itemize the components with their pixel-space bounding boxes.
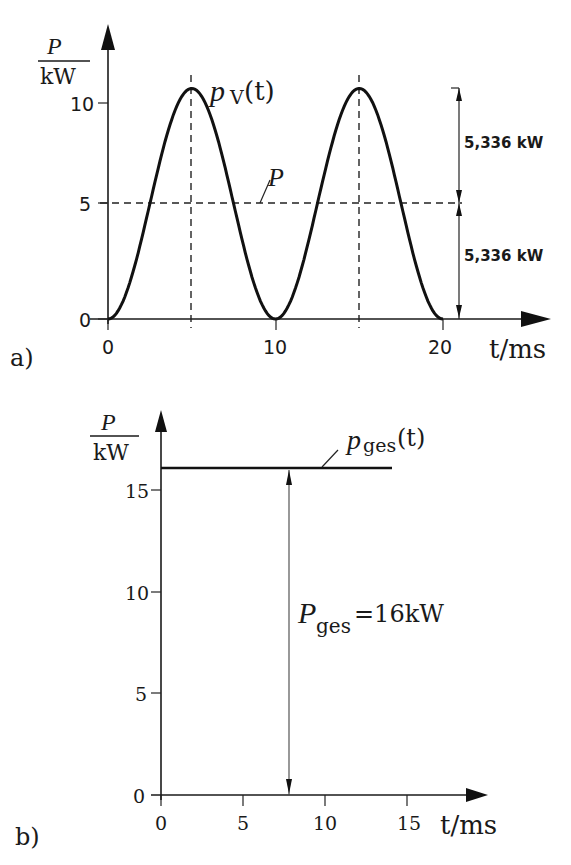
chart-a-xlabel: t/ms <box>489 334 546 364</box>
chart-b-curve-leader <box>322 450 338 467</box>
chart-a-curve-label-sub: V <box>229 86 244 108</box>
chart-a-dim-arrow-up-icon <box>456 203 462 216</box>
chart-a-dim-label-upper: 5,336 kW <box>464 134 544 152</box>
chart-a-y-axis-arrow-icon <box>101 24 115 50</box>
chart-b-xtick-label-15: 15 <box>397 812 421 834</box>
figure: P kW 10 5 0 0 10 20 t/ms p V <box>0 0 571 865</box>
chart-a-ylabel-den: kW <box>40 64 76 89</box>
chart-b-xtick-label-0: 0 <box>155 812 167 834</box>
chart-a-dim-label-lower: 5,336 kW <box>464 247 544 265</box>
chart-b-annotation-main: P <box>297 596 316 629</box>
chart-b-ylabel-den: kW <box>93 440 129 465</box>
chart-b-ytick-label-15: 15 <box>125 480 149 502</box>
chart-a-pv-curve <box>108 89 443 320</box>
chart-a-panel-label: a) <box>10 344 34 372</box>
chart-b-annotation-value: =16kW <box>354 600 444 628</box>
chart-a-xtick-label-10: 10 <box>263 336 287 358</box>
chart-a-ytick-label-0: 0 <box>79 309 91 331</box>
chart-b-ytick-label-5: 5 <box>135 683 147 705</box>
chart-a-ytick-label-5: 5 <box>79 193 91 215</box>
chart-a-ytick-label-10: 10 <box>70 93 94 115</box>
chart-b-curve-label-sub: ges <box>363 434 396 456</box>
chart-a-curve-label-main: p <box>208 74 225 107</box>
chart-b-ylabel-num: P <box>100 409 116 435</box>
chart-b: P kW 15 10 5 0 0 5 10 15 t/ms p ges <box>15 409 497 851</box>
chart-a-xtick-label-0: 0 <box>102 336 114 358</box>
chart-b-ytick-label-10: 10 <box>125 582 149 604</box>
chart-a-dim-arrow-up-icon <box>456 88 462 101</box>
chart-a-xtick-label-20: 20 <box>428 336 452 358</box>
chart-b-annotation-sub: ges <box>316 614 351 638</box>
chart-b-xtick-label-5: 5 <box>237 812 249 834</box>
chart-a-ylabel-num: P <box>46 33 62 59</box>
chart-b-xtick-label-10: 10 <box>313 812 337 834</box>
chart-b-ytick-label-0: 0 <box>133 785 145 807</box>
chart-b-x-axis-arrow-icon <box>466 788 488 802</box>
chart-b-curve-label-arg: (t) <box>397 424 425 452</box>
chart-b-y-axis-arrow-icon <box>155 410 167 432</box>
chart-a-dim-arrow-down-icon <box>456 305 462 318</box>
chart-b-curve-label-main: p <box>345 424 361 455</box>
chart-b-dim-arrow-down-icon <box>286 779 292 794</box>
chart-b-panel-label: b) <box>15 823 40 851</box>
chart-a: P kW 10 5 0 0 10 20 t/ms p V <box>10 24 551 372</box>
chart-a-x-axis-arrow-icon <box>521 311 551 327</box>
chart-a-mean-label: P <box>267 163 284 192</box>
chart-b-dim-arrow-up-icon <box>286 470 292 485</box>
chart-a-curve-label-arg: (t) <box>244 76 275 106</box>
chart-a-dim-arrow-down-icon <box>456 190 462 203</box>
chart-b-xlabel: t/ms <box>440 810 497 840</box>
